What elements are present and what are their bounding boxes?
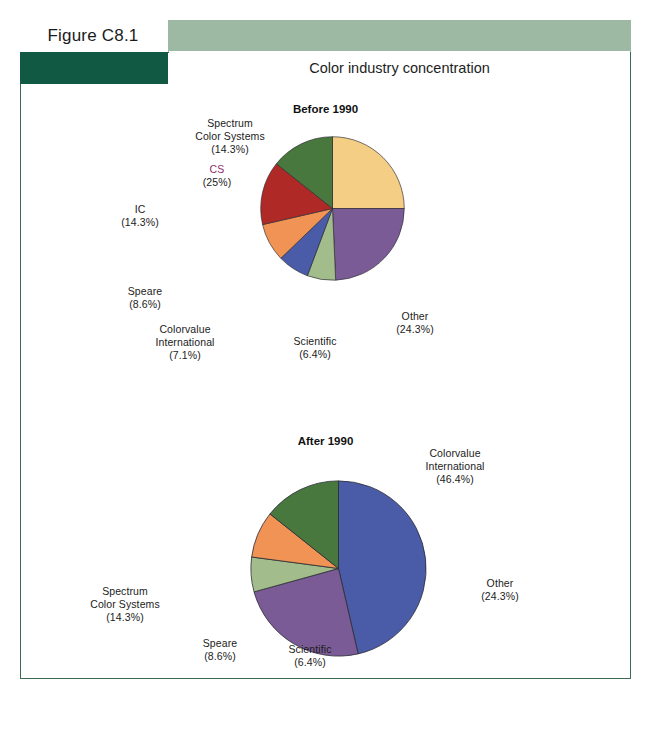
pie-label-name: Other bbox=[350, 310, 480, 323]
pie-label-scientific: Scientific(6.4%) bbox=[250, 643, 370, 669]
pie-label-name: Scientific bbox=[255, 335, 375, 348]
pie-label-percent: (14.3%) bbox=[80, 216, 200, 229]
pie-chart-before-1990: Before 1990 Spectrum Color Systems(14.3%… bbox=[0, 95, 651, 405]
header-band-light bbox=[168, 20, 631, 52]
pie-label-name: Other bbox=[440, 577, 560, 590]
pie-label-percent: (7.1%) bbox=[125, 349, 245, 362]
pie-label-percent: (24.3%) bbox=[350, 323, 480, 336]
pie-label-percent: (6.4%) bbox=[250, 656, 370, 669]
pie-label-percent: (24.3%) bbox=[440, 590, 560, 603]
pie-graphic-after bbox=[250, 480, 427, 657]
pie-label-scientific: Scientific(6.4%) bbox=[255, 335, 375, 361]
pie-label-name: CS bbox=[157, 163, 277, 176]
pie-label-name: Colorvalue International bbox=[125, 323, 245, 349]
pie-label-colorvalue-international: Colorvalue International(7.1%) bbox=[125, 323, 245, 361]
pie-slice-other bbox=[333, 209, 405, 281]
pie-label-percent: (25%) bbox=[157, 176, 277, 189]
pie-slice-cs bbox=[333, 137, 405, 209]
pie-label-name: Speare bbox=[85, 285, 205, 298]
pie-label-name: Colorvalue International bbox=[390, 447, 520, 473]
pie-chart-after-1990: After 1990 Colorvalue International(46.4… bbox=[0, 425, 651, 725]
pie-label-name: Spectrum Color Systems bbox=[60, 585, 190, 611]
pie-label-spectrum-color-systems: Spectrum Color Systems(14.3%) bbox=[170, 117, 290, 155]
header-band-dark bbox=[20, 52, 168, 84]
chart-heading-before: Before 1990 bbox=[0, 103, 651, 115]
pie-label-other: Other(24.3%) bbox=[440, 577, 560, 603]
pie-graphic-before bbox=[260, 136, 405, 281]
pie-label-name: IC bbox=[80, 203, 200, 216]
pie-label-name: Spectrum Color Systems bbox=[170, 117, 290, 143]
pie-label-other: Other(24.3%) bbox=[350, 310, 480, 336]
figure-number-label: Figure C8.1 bbox=[22, 22, 164, 50]
pie-label-percent: (14.3%) bbox=[60, 611, 190, 624]
pie-label-percent: (6.4%) bbox=[255, 348, 375, 361]
pie-label-colorvalue-international: Colorvalue International(46.4%) bbox=[390, 447, 520, 485]
pie-label-percent: (14.3%) bbox=[170, 143, 290, 156]
pie-label-spectrum-color-systems: Spectrum Color Systems(14.3%) bbox=[60, 585, 190, 623]
pie-label-ic: IC(14.3%) bbox=[80, 203, 200, 229]
pie-label-name: Scientific bbox=[250, 643, 370, 656]
chart-heading-after: After 1990 bbox=[0, 435, 651, 447]
figure-title: Color industry concentration bbox=[168, 52, 631, 84]
pie-label-cs: CS(25%) bbox=[157, 163, 277, 189]
pie-label-percent: (46.4%) bbox=[390, 473, 520, 486]
figure-container: Figure C8.1 Color industry concentration… bbox=[0, 0, 651, 744]
pie-label-percent: (8.6%) bbox=[85, 298, 205, 311]
pie-label-speare: Speare(8.6%) bbox=[85, 285, 205, 311]
